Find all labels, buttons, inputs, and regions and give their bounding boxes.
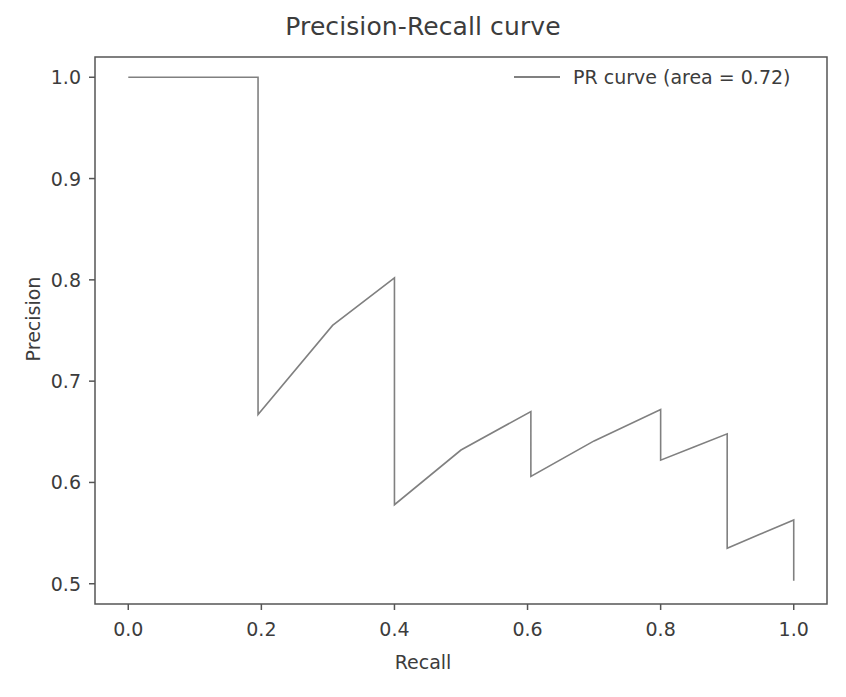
y-tick-label-0.5: 0.5 [9, 573, 81, 595]
chart-plot-area [0, 0, 846, 697]
x-tick-label-1.0: 1.0 [779, 618, 809, 640]
y-tick-label-0.7: 0.7 [9, 370, 81, 392]
chart-legend: PR curve (area = 0.72) [514, 66, 790, 88]
legend-label-pr-curve: PR curve (area = 0.72) [573, 66, 790, 88]
x-axis-label: Recall [0, 651, 846, 673]
y-axis-label: Precision [22, 229, 44, 409]
y-tick-label-1.0: 1.0 [9, 66, 81, 88]
y-tick-label-0.6: 0.6 [9, 471, 81, 493]
x-tick-label-0.6: 0.6 [512, 618, 542, 640]
y-tick-label-0.8: 0.8 [9, 269, 81, 291]
precision-recall-figure: Precision-Recall curve 0.50.60.70.80.91.… [0, 0, 846, 697]
y-tick-label-0.9: 0.9 [9, 168, 81, 190]
x-tick-label-0.2: 0.2 [246, 618, 276, 640]
series-line-0 [128, 77, 793, 580]
legend-line-swatch-pr-curve [514, 76, 560, 78]
plot-frame [95, 57, 827, 604]
x-tick-label-0.4: 0.4 [379, 618, 409, 640]
x-tick-label-0.0: 0.0 [113, 618, 143, 640]
x-tick-label-0.8: 0.8 [646, 618, 676, 640]
